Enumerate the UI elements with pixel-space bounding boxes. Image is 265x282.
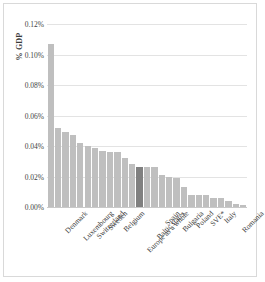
bar [203,195,209,207]
bar [77,143,83,207]
bar [218,198,224,207]
chart-frame: % GDP 0.12%0.10%0.08%0.06%0.04%0.02%0.00… [3,3,257,277]
bar [136,167,142,207]
bar [70,135,76,207]
bar [99,151,105,207]
bar [129,164,135,207]
bar [85,146,91,207]
y-axis-tick-label: 0.12% [25,20,44,29]
y-axis-tick-label: 0.10% [25,50,44,59]
bar [122,158,128,207]
bar [240,205,246,207]
bar [159,175,165,207]
x-axis-tick-label: Romania [240,209,263,235]
gridline: 0.00% [47,207,247,208]
y-axis-tick-label: 0.06% [25,111,44,120]
bar [210,198,216,207]
y-axis-tick-label: 0.04% [25,142,44,151]
bar [114,152,120,207]
bar [196,195,202,207]
bar [173,178,179,207]
bar [48,44,54,207]
bar [55,128,61,207]
y-axis-title: % GDP [15,20,24,74]
y-axis-tick-label: 0.02% [25,172,44,181]
x-axis-labels: DenmarkLuxembourgSwitzerlandSwedenBelgiu… [47,209,247,281]
bar [151,167,157,207]
bar [107,152,113,207]
bar [225,201,231,207]
y-axis-tick-label: 0.08% [25,81,44,90]
bar [166,177,172,208]
plot-area: 0.12%0.10%0.08%0.06%0.04%0.02%0.00% [47,24,247,207]
bar-series [47,24,247,207]
bar [233,204,239,207]
bar [92,148,98,207]
bar [188,195,194,207]
bar [181,187,187,207]
bar [62,132,68,207]
bar [144,167,150,207]
y-axis-tick-label: 0.00% [25,203,44,212]
